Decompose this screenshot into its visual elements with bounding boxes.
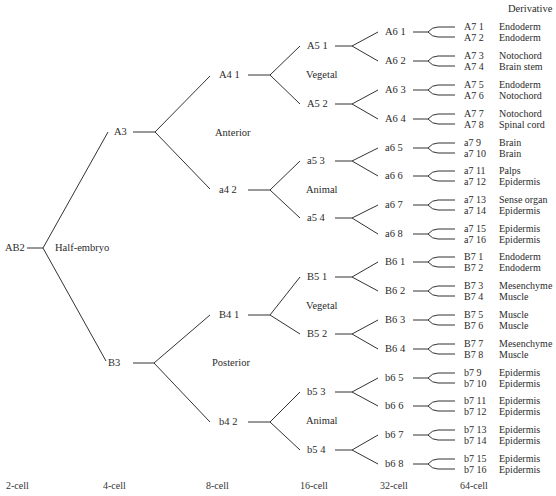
cell-b7-14: b7 14 [464, 435, 487, 446]
cell-a6-8: a6 8 [385, 228, 403, 240]
derivative-2: Notochord [499, 50, 542, 61]
cell-b7-10: b7 10 [464, 378, 487, 389]
cell-b7-13: b7 13 [464, 424, 487, 435]
derivative-22: Mesenchyme [499, 338, 552, 349]
derivative-28: Epidermis [499, 424, 540, 435]
cell-a6-5: a6 5 [385, 142, 403, 154]
cell-b6-7: b6 7 [385, 429, 403, 441]
cell-A7-1: A7 1 [464, 21, 484, 32]
cell-B7-4: B7 4 [464, 291, 483, 302]
derivative-7: Spinal cord [499, 119, 545, 130]
region-anterior: Anterior [215, 127, 251, 139]
cell-b5-4: b5 4 [307, 444, 325, 456]
derivative-header: Derivative [508, 3, 552, 15]
derivative-4: Endoderm [499, 79, 541, 90]
cell-b7-9: b7 9 [464, 367, 482, 378]
derivative-5: Notochord [499, 90, 542, 101]
cell-B7-5: B7 5 [464, 309, 483, 320]
cell-B3: B3 [108, 357, 120, 369]
cell-A5-1: A5 1 [307, 40, 328, 52]
stage-4-cell: 4-cell [103, 480, 126, 491]
region-animal: Animal [306, 184, 338, 196]
cell-AB2: AB2 [5, 242, 25, 254]
cell-A7-3: A7 3 [464, 50, 484, 61]
derivative-3: Brain stem [499, 61, 543, 72]
derivative-24: Epidermis [499, 367, 540, 378]
cell-B6-4: B6 4 [385, 343, 405, 355]
derivative-10: Palps [499, 165, 521, 176]
stage-64-cell: 64-cell [460, 480, 488, 491]
cell-A7-4: A7 4 [464, 61, 484, 72]
cell-A4-1: A4 1 [219, 69, 240, 81]
cell-a7-9: a7 9 [464, 137, 481, 148]
derivative-19: Muscle [499, 291, 528, 302]
cell-A3: A3 [114, 126, 127, 138]
region-half-embryo: Half-embryo [55, 242, 109, 254]
cell-B7-3: B7 3 [464, 280, 483, 291]
cell-b6-6: b6 6 [385, 400, 403, 412]
derivative-6: Notochord [499, 108, 542, 119]
region-vegetal: Vegetal [306, 300, 338, 312]
derivative-13: Epidermis [499, 205, 540, 216]
stage-16-cell: 16-cell [300, 480, 328, 491]
cell-B7-1: B7 1 [464, 251, 483, 262]
cell-A7-8: A7 8 [464, 119, 484, 130]
derivative-11: Epidermis [499, 176, 540, 187]
cell-A7-7: A7 7 [464, 108, 484, 119]
cell-A7-6: A7 6 [464, 90, 484, 101]
cell-A7-5: A7 5 [464, 79, 484, 90]
derivative-23: Muscle [499, 349, 528, 360]
derivative-1: Endoderm [499, 32, 541, 43]
cell-b7-12: b7 12 [464, 406, 487, 417]
derivative-26: Epidermis [499, 395, 540, 406]
derivative-21: Muscle [499, 320, 528, 331]
cell-b7-16: b7 16 [464, 464, 487, 475]
cell-b5-3: b5 3 [307, 386, 325, 398]
cell-B7-6: B7 6 [464, 320, 483, 331]
cell-a5-3: a5 3 [307, 155, 325, 167]
region-posterior: Posterior [212, 357, 250, 369]
cell-b7-11: b7 11 [464, 395, 486, 406]
cell-B6-2: B6 2 [385, 285, 405, 297]
cell-a4-2: a4 2 [219, 184, 237, 196]
cell-B6-3: B6 3 [385, 314, 405, 326]
cell-b4-2: b4 2 [219, 416, 237, 428]
cell-a7-12: a7 12 [464, 176, 486, 187]
cell-B5-2: B5 2 [307, 328, 327, 340]
cell-b6-5: b6 5 [385, 372, 403, 384]
cell-a5-4: a5 4 [307, 212, 325, 224]
cell-b6-8: b6 8 [385, 458, 403, 470]
derivative-15: Epidermis [499, 234, 540, 245]
cell-A6-2: A6 2 [385, 55, 406, 67]
derivative-0: Endoderm [499, 21, 541, 32]
derivative-18: Mesenchyme [499, 280, 552, 291]
stage-32-cell: 32-cell [380, 480, 408, 491]
derivative-27: Epidermis [499, 406, 540, 417]
cell-A6-3: A6 3 [385, 84, 406, 96]
cell-A6-4: A6 4 [385, 113, 406, 125]
cell-a7-10: a7 10 [464, 148, 486, 159]
derivative-20: Muscle [499, 309, 528, 320]
derivative-31: Epidermis [499, 464, 540, 475]
cell-B7-8: B7 8 [464, 349, 483, 360]
cell-B4-1: B4 1 [219, 309, 239, 321]
derivative-9: Brain [499, 148, 521, 159]
derivative-17: Endoderm [499, 262, 541, 273]
derivative-30: Epidermis [499, 453, 540, 464]
cell-B7-7: B7 7 [464, 338, 483, 349]
derivative-16: Endoderm [499, 251, 541, 262]
cell-a7-16: a7 16 [464, 234, 486, 245]
cell-a7-14: a7 14 [464, 205, 486, 216]
cell-B7-2: B7 2 [464, 262, 483, 273]
derivative-29: Epidermis [499, 435, 540, 446]
region-animal: Animal [306, 415, 338, 427]
cell-A5-2: A5 2 [307, 98, 328, 110]
cell-B6-1: B6 1 [385, 256, 405, 268]
derivative-25: Epidermis [499, 378, 540, 389]
derivative-12: Sense organ [499, 194, 547, 205]
cell-a7-11: a7 11 [464, 165, 486, 176]
cell-a7-13: a7 13 [464, 194, 486, 205]
cell-a6-7: a6 7 [385, 199, 403, 211]
derivative-14: Epidermis [499, 223, 540, 234]
derivative-8: Brain [499, 137, 521, 148]
